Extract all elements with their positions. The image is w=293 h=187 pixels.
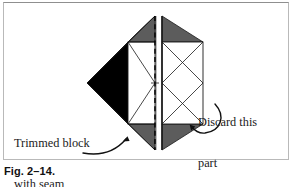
figure-page: Trimmed block with seam allowance Discar…: [0, 0, 293, 187]
label-discard-line-2: part: [198, 157, 257, 171]
label-trimmed-line-1: Trimmed block: [14, 137, 90, 151]
label-discard-line-1: Discard this: [198, 116, 257, 130]
label-trimmed-line-2: with seam: [14, 178, 90, 187]
figure-caption: Fig. 2–14.: [4, 165, 55, 177]
label-discard-part: Discard this part: [198, 88, 257, 187]
